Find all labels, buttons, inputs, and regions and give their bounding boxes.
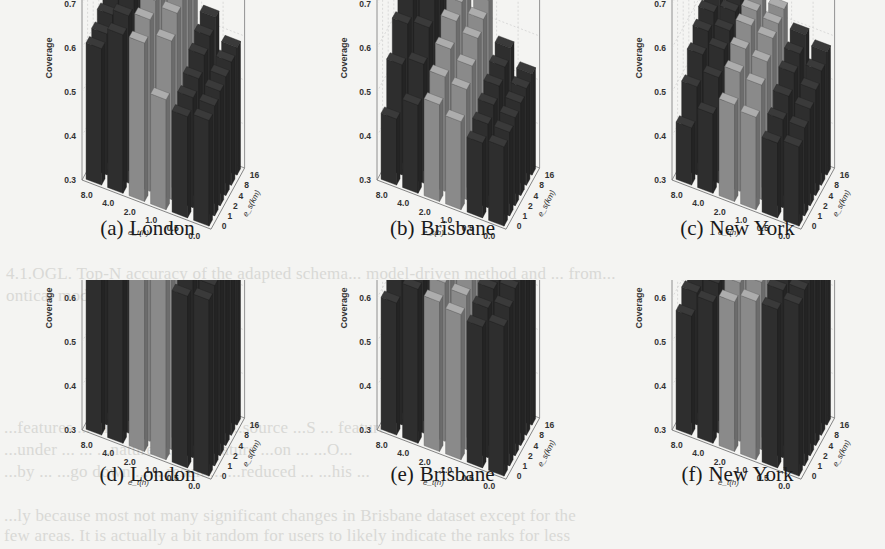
y-tick-label: 16 [250,420,260,430]
x-tick-label: 2.0 [124,207,136,217]
x-tick-label: 4.0 [397,198,409,208]
x-tick-label: 4.0 [692,198,704,208]
caption-title: New York [708,462,793,486]
chart-panel-b: 0.30.40.50.60.70.80.98.04.02.01.00.50.00… [295,0,590,272]
z-tick-label: 0.4 [64,131,76,141]
bar [467,131,486,218]
y-tick-label: 4 [534,441,539,451]
y-axis-title: e_s(km) [831,188,853,218]
caption-f: (f)New York [590,462,885,487]
bar [762,131,781,218]
bar [194,108,213,226]
bars [381,0,535,226]
y-tick-label: 8 [834,430,839,440]
z-tick-label: 0.6 [64,43,76,53]
x-tick-label: 4.0 [102,198,114,208]
bar [381,107,400,185]
y-tick-label: 8 [244,180,249,190]
z-axis-title: Coverage [634,37,644,78]
z-tick-label: 0.5 [64,87,76,97]
bar [424,290,443,452]
bar [741,289,760,460]
bars [676,280,830,476]
bar [489,135,508,226]
bar [172,104,191,217]
bar [719,290,738,452]
bar [467,315,486,468]
z-tick-label: 0.5 [359,87,371,97]
bar3d-chart-e: 0.30.40.50.60.70.80.98.04.02.01.00.50.00… [295,280,590,544]
z-tick-label: 0.6 [359,293,371,303]
y-axis-title: e_s(km) [536,188,558,218]
bar [151,87,170,209]
y-tick-label: 2 [823,451,828,461]
z-tick-label: 0.3 [359,175,371,185]
chart-panel-e: 0.30.40.50.60.70.80.98.04.02.01.00.50.00… [295,280,590,549]
caption-title: Brisbane [420,216,495,240]
bar [676,116,695,185]
y-tick-label: 2 [823,201,828,211]
z-tick-label: 0.5 [654,337,666,347]
caption-label: (d) [100,462,125,486]
y-tick-label: 2 [233,451,238,461]
bar [403,280,422,443]
x-tick-label: 8.0 [671,190,683,200]
x-tick-label: 8.0 [81,440,93,450]
bar [108,280,127,443]
y-tick-label: 4 [829,441,834,451]
z-tick-label: 0.4 [359,381,371,391]
bar [719,92,738,201]
y-tick-label: 8 [539,180,544,190]
y-tick-label: 4 [829,191,834,201]
chart-panel-d: 0.30.40.50.60.70.80.98.04.02.01.00.50.00… [0,280,295,549]
bar [403,93,422,193]
caption-title: London [130,462,195,486]
bar [698,290,717,443]
x-tick-label: 8.0 [376,190,388,200]
bar3d-chart-d: 0.30.40.50.60.70.80.98.04.02.01.00.50.00… [0,280,295,544]
z-tick-label: 0.5 [654,87,666,97]
y-tick-label: 2 [233,201,238,211]
y-tick-label: 2 [528,451,533,461]
bar [129,280,148,452]
z-tick-label: 0.4 [359,131,371,141]
z-tick-label: 0.6 [359,43,371,53]
caption-label: (c) [680,216,703,240]
caption-d: (d)London [0,462,295,487]
z-tick-label: 0.7 [359,0,371,9]
z-tick-label: 0.5 [359,337,371,347]
bar [446,109,465,209]
z-tick-label: 0.6 [64,293,76,303]
bar [784,292,803,476]
caption-label: (a) [100,216,123,240]
y-axis-title: e_s(km) [241,188,263,218]
y-tick-label: 16 [545,420,555,430]
z-tick-label: 0.4 [64,381,76,391]
z-tick-label: 0.3 [654,425,666,435]
x-tick-label: 8.0 [671,440,683,450]
caption-e: (e)Brisbane [295,462,590,487]
z-axis-title: Coverage [44,37,54,78]
z-tick-label: 0.4 [654,381,666,391]
bar [698,102,717,193]
y-tick-label: 4 [239,441,244,451]
x-tick-label: 8.0 [376,440,388,450]
y-tick-label: 8 [244,430,249,440]
x-tick-label: 2.0 [419,207,431,217]
y-tick-label: 16 [545,170,555,180]
bar [762,297,781,468]
y-tick-label: 16 [840,170,850,180]
z-tick-label: 0.5 [64,337,76,347]
y-tick-label: 2 [528,201,533,211]
caption-title: Brisbane [420,462,495,486]
chart-panel-c: 0.30.40.50.60.70.80.98.04.02.01.00.50.00… [590,0,885,272]
z-tick-label: 0.6 [654,43,666,53]
z-tick-label: 0.6 [654,293,666,303]
y-tick-label: 4 [534,191,539,201]
chart-panel-f: 0.30.40.50.60.70.80.98.04.02.01.00.50.00… [590,280,885,549]
caption-c: (c)New York [590,216,885,241]
z-axis-title: Coverage [44,287,54,328]
z-tick-label: 0.4 [654,131,666,141]
bar [784,135,803,226]
z-axis-title: Coverage [634,287,644,328]
